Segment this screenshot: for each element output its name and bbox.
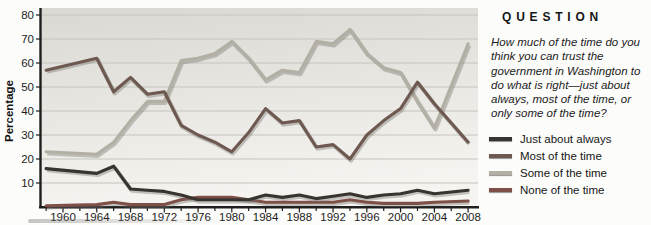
trust-chart-svg: 1020304050607080196019641968197219761980… xyxy=(0,0,490,225)
y-tick-label: 10 xyxy=(21,177,34,189)
x-tick-label: 1996 xyxy=(354,211,380,223)
legend-item: None of the time xyxy=(489,182,649,199)
question-panel: QUESTION How much of the time do you thi… xyxy=(489,8,649,199)
y-tick-label: 20 xyxy=(21,153,34,165)
legend-line-swatch-icon xyxy=(489,188,512,192)
question-text: How much of the time do you think you ca… xyxy=(491,35,647,121)
y-tick-label: 80 xyxy=(21,9,34,21)
question-header: QUESTION xyxy=(502,10,649,24)
y-tick-label: 70 xyxy=(21,33,34,45)
x-tick-label: 2000 xyxy=(388,211,414,223)
x-tick-label: 2004 xyxy=(422,211,448,223)
legend-label: Some of the time xyxy=(520,167,607,179)
legend-item: Most of the time xyxy=(489,148,649,165)
y-tick-label: 30 xyxy=(21,129,34,141)
x-tick-label: 1988 xyxy=(287,211,313,223)
x-tick-label: 1984 xyxy=(253,211,279,223)
x-tick-label: 1980 xyxy=(219,211,245,223)
y-axis-title: Percentage xyxy=(3,80,15,142)
x-tick-label: 1992 xyxy=(320,211,346,223)
legend-line-swatch-icon xyxy=(489,171,512,175)
legend-item: Just about always xyxy=(489,131,649,148)
y-tick-label: 50 xyxy=(21,81,34,93)
legend-line-swatch-icon xyxy=(489,154,512,158)
legend-item: Some of the time xyxy=(489,165,649,182)
legend-line-swatch-icon xyxy=(489,137,512,141)
x-tick-label: 1972 xyxy=(151,211,177,223)
plot-background xyxy=(41,8,478,207)
legend-label: None of the time xyxy=(520,184,604,196)
x-tick-label: 1960 xyxy=(50,211,76,223)
legend-label: Just about always xyxy=(520,133,611,145)
y-tick-label: 60 xyxy=(21,57,34,69)
legend-label: Most of the time xyxy=(520,150,602,162)
x-tick-label: 1976 xyxy=(185,211,211,223)
trust-in-government-figure: 1020304050607080196019641968197219761980… xyxy=(0,0,651,225)
x-tick-label: 2008 xyxy=(455,211,481,223)
x-tick-label: 1964 xyxy=(84,211,110,223)
y-tick-label: 40 xyxy=(21,105,34,117)
x-tick-label: 1968 xyxy=(118,211,144,223)
legend: Just about alwaysMost of the timeSome of… xyxy=(489,131,649,199)
chart-panel: 1020304050607080196019641968197219761980… xyxy=(0,0,490,225)
